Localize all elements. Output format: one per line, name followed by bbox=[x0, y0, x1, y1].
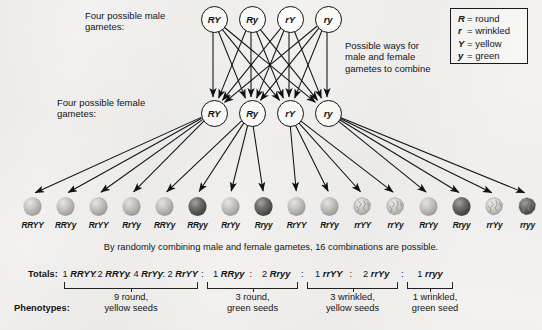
legend-row: y= green bbox=[458, 50, 527, 62]
phenotype-summary: 3 round, green seeds bbox=[205, 292, 300, 314]
totals-genotype: RRYy bbox=[105, 269, 130, 279]
gamete-label: Ry bbox=[246, 108, 258, 119]
totals-term: 1 rrYY bbox=[305, 269, 353, 279]
totals-count: 2 bbox=[262, 269, 270, 279]
totals-count: 1 bbox=[315, 269, 323, 279]
seed-glyph bbox=[319, 196, 340, 217]
totals-genotype: rryy bbox=[425, 269, 443, 279]
seed-glyph bbox=[220, 196, 241, 217]
totals-group-bracket bbox=[307, 282, 398, 289]
phenotype-summary: 3 wrinkled, yellow seeds bbox=[305, 292, 400, 314]
totals-count: 2 bbox=[363, 269, 371, 279]
totals-genotype: rrYY bbox=[323, 269, 343, 279]
gamete-label: ry bbox=[324, 108, 333, 119]
male-gametes-label: Four possible male gametes: bbox=[85, 10, 165, 33]
legend-meaning: = round bbox=[467, 13, 500, 24]
seed-round-green bbox=[451, 196, 472, 217]
seed-round-green bbox=[187, 196, 208, 217]
totals-genotype: RRyy bbox=[221, 269, 245, 279]
seed-glyph bbox=[385, 196, 406, 217]
legend-allele: R bbox=[458, 13, 467, 25]
legend-meaning: = yellow bbox=[467, 38, 502, 49]
gamete-label: Ry bbox=[246, 14, 258, 25]
totals-count: 1 bbox=[417, 269, 425, 279]
legend-allele: Y bbox=[458, 38, 467, 50]
seed-glyph bbox=[286, 196, 307, 217]
female-gametes-label: Four possible female gametes: bbox=[57, 97, 145, 120]
legend-row: Y= yellow bbox=[458, 38, 527, 50]
totals-term: 2 RrYY bbox=[166, 269, 201, 279]
legend-allele: y bbox=[458, 50, 467, 62]
female-gamete-RY: RY bbox=[201, 100, 228, 127]
phenotype-summary: 9 round, yellow seeds bbox=[62, 292, 200, 314]
totals-group-separator: : bbox=[201, 269, 204, 279]
seed-glyph bbox=[352, 196, 373, 217]
gamete-label: rY bbox=[285, 14, 295, 25]
totals-genotype: RrYY bbox=[175, 269, 198, 279]
seed-wrinkled-yellow bbox=[352, 196, 373, 217]
totals-genotype: rrYy bbox=[371, 269, 390, 279]
seed-round-yellow bbox=[121, 196, 142, 217]
seed-round-yellow bbox=[220, 196, 241, 217]
totals-group-separator: : bbox=[301, 269, 304, 279]
female-gamete-Ry: Ry bbox=[239, 100, 266, 127]
male-gamete-RY: RY bbox=[201, 6, 228, 33]
totals-group-bracket bbox=[407, 282, 453, 289]
seed-glyph bbox=[517, 196, 538, 217]
seed-round-yellow bbox=[319, 196, 340, 217]
genotype-label: rryy bbox=[505, 220, 542, 230]
male-gamete-Ry: Ry bbox=[239, 6, 266, 33]
seed-round-yellow bbox=[88, 196, 109, 217]
seed-glyph bbox=[88, 196, 109, 217]
seed-round-yellow bbox=[286, 196, 307, 217]
phenotype-summary: 1 wrinkled, green seed bbox=[400, 292, 470, 314]
female-gamete-ry: ry bbox=[315, 100, 342, 127]
seed-glyph bbox=[187, 196, 208, 217]
totals-genotype: Rryy bbox=[270, 269, 291, 279]
seed-glyph bbox=[154, 196, 175, 217]
seed-round-yellow bbox=[55, 196, 76, 217]
female-gamete-rY: rY bbox=[277, 100, 304, 127]
totals-group-bracket bbox=[207, 282, 298, 289]
totals-term: 1 RRyy bbox=[205, 269, 253, 279]
male-gamete-rY: rY bbox=[277, 6, 304, 33]
gamete-label: RY bbox=[208, 14, 221, 25]
totals-count: 1 bbox=[213, 269, 221, 279]
totals-term: 4 RrYy bbox=[131, 269, 166, 279]
seed-glyph bbox=[22, 196, 43, 217]
seed-glyph bbox=[418, 196, 439, 217]
gamete-label: RY bbox=[208, 108, 221, 119]
legend-meaning: = green bbox=[467, 50, 500, 61]
totals-genotype: RrYy bbox=[141, 269, 163, 279]
seed-round-green bbox=[253, 196, 274, 217]
combination-caption: By randomly combining male and female ga… bbox=[0, 242, 542, 252]
totals-term: 2 Rryy bbox=[253, 269, 301, 279]
totals-term: 2 rrYy bbox=[353, 269, 401, 279]
seed-wrinkled-green bbox=[517, 196, 538, 217]
totals-term: 2 RRYy bbox=[97, 269, 132, 279]
seed-glyph bbox=[451, 196, 472, 217]
male-gamete-ry: ry bbox=[315, 6, 342, 33]
seed-glyph bbox=[121, 196, 142, 217]
legend-row: r= wrinkled bbox=[458, 25, 527, 37]
gamete-label: ry bbox=[324, 14, 333, 25]
totals-term: 1 rryy bbox=[405, 269, 455, 279]
totals-row-label: Totals: bbox=[28, 269, 58, 279]
genetics-dihybrid-cross-diagram: Four possible male gametes: Four possibl… bbox=[0, 0, 542, 330]
seed-glyph bbox=[484, 196, 505, 217]
totals-term: 1 RRYY bbox=[62, 269, 97, 279]
legend-row: R= round bbox=[458, 13, 527, 25]
legend-meaning: = wrinkled bbox=[467, 25, 510, 36]
combine-note-label: Possible ways for male and female gamete… bbox=[345, 40, 431, 74]
totals-genotype: RRYY bbox=[70, 269, 96, 279]
seed-glyph bbox=[55, 196, 76, 217]
seed-wrinkled-yellow bbox=[385, 196, 406, 217]
seed-round-yellow bbox=[154, 196, 175, 217]
totals-group-separator: : bbox=[401, 269, 404, 279]
seed-round-yellow bbox=[418, 196, 439, 217]
seed-round-yellow bbox=[22, 196, 43, 217]
totals-group-bracket bbox=[64, 282, 198, 289]
seed-wrinkled-yellow bbox=[484, 196, 505, 217]
legend-allele: r bbox=[458, 25, 467, 37]
gamete-label: rY bbox=[285, 108, 295, 119]
